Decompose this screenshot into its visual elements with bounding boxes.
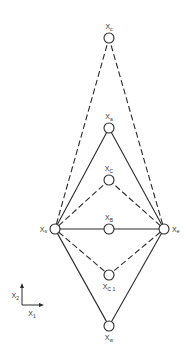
edge-xs-xa (57, 132, 106, 224)
edge-xs-xw (57, 233, 106, 321)
node-xe: Xe (159, 224, 180, 234)
edge-xe-xc1 (113, 232, 160, 272)
diagram-svg: XcXaXCXsXBXeXC 1Xw X2X1 (0, 0, 187, 357)
edge-xe-xc_top (110, 43, 162, 224)
node-circle (159, 224, 169, 234)
node-circle (104, 270, 114, 280)
y-axis-label: X2 (12, 292, 20, 301)
node-circle (50, 224, 60, 234)
node-xc: XC (104, 165, 114, 185)
node-xw: Xw (104, 321, 114, 343)
edge-xe-xa (111, 132, 161, 224)
node-xc_top: Xc (104, 23, 114, 43)
node-label: Xw (105, 334, 114, 343)
nodes-group: XcXaXCXsXBXeXC 1Xw (40, 23, 180, 343)
node-xs: Xs (40, 224, 60, 234)
node-xa: Xa (104, 113, 114, 133)
x-axis-label: X1 (28, 310, 36, 319)
node-circle (104, 321, 114, 331)
node-circle (104, 33, 114, 43)
node-circle (104, 224, 114, 234)
node-label: Xe (172, 226, 180, 235)
axis-indicator: X2X1 (12, 283, 44, 319)
node-label: XC (105, 165, 114, 174)
node-circle (104, 123, 114, 133)
node-label: XB (105, 214, 114, 223)
node-label: Xc (105, 23, 113, 32)
node-xc1: XC 1 (103, 270, 116, 292)
node-label: Xs (40, 226, 48, 235)
node-circle (104, 175, 114, 185)
node-label: Xa (105, 113, 113, 122)
y-axis-arrow-icon (20, 283, 24, 288)
x-axis-arrow-icon (39, 303, 44, 307)
edge-xs-xc_top (56, 43, 107, 224)
node-xb: XB (104, 214, 114, 234)
edge-xe-xw (111, 233, 161, 321)
flow-diagram: XcXaXCXsXBXeXC 1Xw X2X1 (0, 0, 187, 357)
edge-xs-xc (59, 183, 106, 225)
edge-xs-xc1 (59, 232, 105, 272)
node-label: XC 1 (103, 283, 116, 292)
edge-xe-xc (113, 183, 161, 225)
